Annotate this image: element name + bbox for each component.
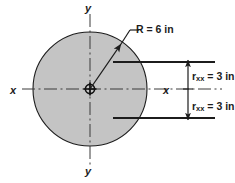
radius-leader (121, 30, 130, 44)
x-axis-left-label: x (10, 85, 16, 96)
rxx-top-rest: = 3 in (204, 70, 234, 82)
y-axis-bottom-label: y (85, 166, 91, 177)
rxx-top-dimension-label: rxx = 3 in (192, 71, 235, 83)
x-axis-right-label: x (163, 85, 169, 96)
figure-container: y y x x R = 6 in rxx = 3 in rxx = 3 in (0, 0, 235, 183)
radius-dimension-label: R = 6 in (136, 24, 174, 35)
y-axis-top-label: y (85, 3, 91, 14)
figure-drawing (0, 0, 235, 183)
rxx-bottom-rest: = 3 in (204, 100, 234, 112)
rxx-bottom-dimension-label: rxx = 3 in (192, 101, 235, 113)
